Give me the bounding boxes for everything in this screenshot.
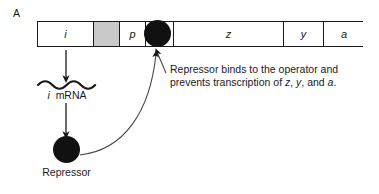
lac-operon-repression-diagram: A ipzya i mRNA Repressor Re bbox=[0, 0, 379, 194]
mrna-squiggle-icon bbox=[38, 81, 95, 89]
diagram-arrows-overlay bbox=[0, 0, 379, 194]
repressor-binding-curved-arrow-icon bbox=[80, 54, 156, 155]
operator-bound-repressor-blob bbox=[144, 20, 171, 47]
repressor-protein-blob bbox=[53, 136, 80, 163]
caption-pointer-arrow-icon bbox=[157, 52, 166, 73]
